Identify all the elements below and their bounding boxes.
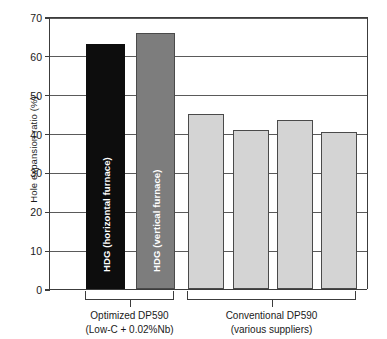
y-tick-mark-50	[45, 95, 50, 96]
y-tick-label-0: 0	[36, 284, 42, 296]
y-tick-mark-70	[45, 17, 50, 18]
y-tick-mark-10	[45, 251, 50, 252]
bar-2-label: HDG (vertical furnace)	[150, 169, 161, 272]
group-2-bracket-stem	[272, 300, 273, 307]
y-tick-mark-40	[45, 134, 50, 135]
y-tick-mark-30	[45, 173, 50, 174]
group-2-label-line1: Conventional DP590	[157, 309, 386, 323]
group-1-bracket	[85, 291, 174, 300]
y-tick-label-50: 50	[30, 90, 42, 102]
y-tick-mark-0	[45, 289, 50, 290]
group-2-bracket	[187, 291, 356, 300]
gridline-70	[50, 18, 367, 19]
bar-6	[321, 132, 357, 289]
group-2-label: Conventional DP590(various suppliers)	[157, 309, 386, 336]
y-tick-label-40: 40	[30, 129, 42, 141]
plot-inner: 010203040506070HDG (horizontal furnace)H…	[50, 18, 367, 289]
bar-2: HDG (vertical furnace)	[136, 33, 175, 289]
y-tick-label-30: 30	[30, 167, 42, 179]
bar-3	[188, 114, 224, 289]
bar-5	[277, 120, 313, 289]
bar-4	[233, 130, 269, 289]
hole-expansion-ratio-bar-chart: Hole expansion ratio (%) 010203040506070…	[0, 0, 387, 339]
y-tick-mark-60	[45, 56, 50, 57]
bar-1-label: HDG (horizontal furnace)	[100, 157, 111, 272]
bar-1: HDG (horizontal furnace)	[86, 44, 125, 289]
y-tick-label-70: 70	[30, 12, 42, 24]
group-2-label-line2: (various suppliers)	[157, 323, 386, 337]
y-tick-label-10: 10	[30, 245, 42, 257]
plot-area: 010203040506070HDG (horizontal furnace)H…	[49, 17, 368, 289]
y-tick-label-60: 60	[30, 51, 42, 63]
y-tick-label-20: 20	[30, 206, 42, 218]
group-1-bracket-stem	[130, 300, 131, 307]
y-tick-mark-20	[45, 212, 50, 213]
